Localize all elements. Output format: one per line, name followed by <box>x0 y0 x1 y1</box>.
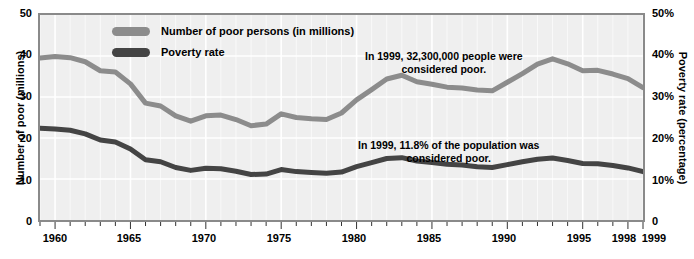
y-axis-left-tick: 20 <box>6 132 32 144</box>
x-axis-tick: 1965 <box>109 232 149 244</box>
poverty-chart: Number of poor (millions) Poverty rate (… <box>0 0 694 259</box>
y-axis-left-tick: 40 <box>6 48 32 60</box>
y-axis-right-tick: 50% <box>652 7 686 19</box>
annotation-poverty-rate-line1: In 1999, 11.8% of the population was <box>358 139 539 152</box>
y-axis-right-title: Poverty rate (percentage) <box>677 43 689 193</box>
legend-item-persons: Number of poor persons (in millions) <box>112 22 354 40</box>
annotation-number-of-poor: In 1999, 32,300,000 people were consider… <box>365 50 523 76</box>
x-axis-tickmarks <box>38 222 645 230</box>
y-axis-left-tick: 30 <box>6 90 32 102</box>
x-axis-tick: 1999 <box>634 232 674 244</box>
annotation-number-of-poor-line1: In 1999, 32,300,000 people were <box>365 50 523 63</box>
x-axis-tick: 1990 <box>484 232 524 244</box>
chart-legend: Number of poor persons (in millions) Pov… <box>112 22 354 64</box>
legend-swatch-persons-icon <box>112 27 150 36</box>
x-axis-tick: 1970 <box>184 232 224 244</box>
x-axis-tick: 1985 <box>409 232 449 244</box>
x-axis-tick: 1960 <box>35 232 75 244</box>
annotation-poverty-rate-line2: considered poor. <box>358 152 539 165</box>
x-axis-tick: 1995 <box>559 232 599 244</box>
legend-item-rate: Poverty rate <box>112 43 354 61</box>
y-axis-left-title: Number of poor (millions) <box>14 48 26 188</box>
y-axis-left-tick: 0 <box>6 215 32 227</box>
annotation-number-of-poor-line2: considered poor. <box>365 63 523 76</box>
y-axis-right-tick: 10% <box>652 174 686 186</box>
y-axis-left-tick: 50 <box>6 7 32 19</box>
legend-label-rate: Poverty rate <box>161 46 225 58</box>
x-axis-tick: 1980 <box>334 232 374 244</box>
x-axis-tick: 1975 <box>259 232 299 244</box>
legend-label-persons: Number of poor persons (in millions) <box>161 25 354 37</box>
annotation-poverty-rate: In 1999, 11.8% of the population was con… <box>358 139 539 165</box>
y-axis-right-tick: 30% <box>652 90 686 102</box>
y-axis-left-tick: 10 <box>6 174 32 186</box>
legend-swatch-rate-icon <box>112 48 150 57</box>
y-axis-right-tick: 0 <box>652 215 686 227</box>
y-axis-right-tick: 20% <box>652 132 686 144</box>
y-axis-right-tick: 40% <box>652 48 686 60</box>
